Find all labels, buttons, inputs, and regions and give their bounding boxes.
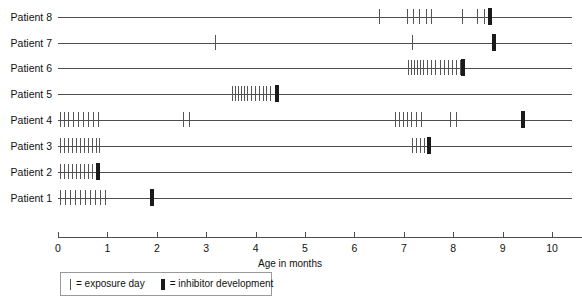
- exposure-day-tick: [407, 9, 408, 24]
- x-axis-tick: [404, 232, 405, 237]
- exposure-day-tick: [70, 190, 71, 205]
- exposure-day-tick: [408, 60, 409, 75]
- exposure-day-tick: [60, 190, 61, 205]
- x-axis-tick-label: 7: [389, 243, 419, 254]
- exposure-day-tick: [440, 60, 441, 75]
- exposure-day-tick: [88, 112, 89, 127]
- patient-timeline-line: [58, 120, 572, 121]
- exposure-day-tick: [259, 86, 260, 101]
- exposure-day-tick: [251, 86, 252, 101]
- x-axis-tick-label: 0: [43, 243, 73, 254]
- exposure-day-icon: [70, 279, 71, 290]
- inhibitor-development-marker: [96, 163, 100, 180]
- exposure-day-tick: [421, 112, 422, 127]
- exposure-day-tick: [92, 138, 93, 153]
- exposure-day-tick: [96, 138, 97, 153]
- exposure-day-tick: [427, 60, 428, 75]
- exposure-day-tick: [452, 60, 453, 75]
- exposure-day-tick: [456, 112, 457, 127]
- x-axis-tick-label: 8: [438, 243, 468, 254]
- patient-row-label: Patient 3: [0, 141, 52, 152]
- exposure-day-tick: [417, 60, 418, 75]
- exposure-day-tick: [411, 60, 412, 75]
- inhibitor-development-marker: [488, 8, 492, 25]
- inhibitor-development-marker: [461, 59, 465, 76]
- exposure-day-tick: [95, 190, 96, 205]
- exposure-day-tick: [435, 60, 436, 75]
- exposure-day-tick: [416, 112, 417, 127]
- patient-timeline-line: [58, 94, 572, 95]
- inhibitor-development-marker: [275, 85, 279, 102]
- exposure-day-tick: [407, 112, 408, 127]
- exposure-day-tick: [247, 86, 248, 101]
- exposure-day-tick: [238, 86, 239, 101]
- exposure-day-tick: [183, 112, 184, 127]
- exposure-day-tick: [423, 60, 424, 75]
- exposure-day-tick: [60, 138, 61, 153]
- legend-label-exposure-day: = exposure day: [76, 279, 145, 289]
- patient-timeline-line: [58, 17, 572, 18]
- legend-entry-inhibitor-development: = inhibitor development: [161, 279, 274, 290]
- exposure-day-tick: [105, 190, 106, 205]
- patient-timeline-line: [58, 172, 572, 173]
- patient-timeline-line: [58, 198, 572, 199]
- exposure-day-tick: [72, 164, 73, 179]
- exposure-day-tick: [83, 112, 84, 127]
- inhibitor-development-marker: [150, 189, 154, 206]
- exposure-day-tick: [76, 138, 77, 153]
- exposure-day-tick: [420, 60, 421, 75]
- patient-timeline-line: [58, 68, 572, 69]
- exposure-day-tick: [419, 9, 420, 24]
- exposure-day-tick: [232, 86, 233, 101]
- exposure-day-tick: [99, 138, 100, 153]
- x-axis-tick: [157, 232, 158, 237]
- exposure-day-tick: [73, 112, 74, 127]
- x-axis-tick-label: 10: [537, 243, 567, 254]
- exposure-day-tick: [215, 35, 216, 50]
- exposure-day-tick: [64, 138, 65, 153]
- exposure-day-tick: [263, 86, 264, 101]
- exposure-day-tick: [72, 138, 73, 153]
- exposure-day-tick: [448, 60, 449, 75]
- exposure-day-tick: [412, 138, 413, 153]
- exposure-day-tick: [189, 112, 190, 127]
- patient-row-label: Patient 4: [0, 115, 52, 126]
- exposure-day-tick: [78, 112, 79, 127]
- x-axis-tick: [206, 232, 207, 237]
- x-axis-tick: [305, 232, 306, 237]
- exposure-day-tick: [403, 112, 404, 127]
- exposure-day-tick: [68, 112, 69, 127]
- exposure-day-tick: [420, 138, 421, 153]
- exposure-day-tick: [424, 138, 425, 153]
- exposure-day-tick: [412, 35, 413, 50]
- patient-row-label: Patient 6: [0, 63, 52, 74]
- patient-timeline-line: [58, 146, 572, 147]
- exposure-day-tick: [76, 164, 77, 179]
- exposure-day-tick: [64, 164, 65, 179]
- x-axis-tick-label: 5: [290, 243, 320, 254]
- patient-row-label: Patient 5: [0, 89, 52, 100]
- patient-exposure-timeline-chart: Patient 8Patient 7Patient 6Patient 5Pati…: [0, 0, 582, 306]
- exposure-day-tick: [98, 112, 99, 127]
- exposure-day-tick: [244, 86, 245, 101]
- exposure-day-tick: [379, 9, 380, 24]
- exposure-day-tick: [100, 190, 101, 205]
- exposure-day-tick: [80, 138, 81, 153]
- x-axis-tick: [354, 232, 355, 237]
- patient-row-label: Patient 8: [0, 12, 52, 23]
- exposure-day-tick: [399, 112, 400, 127]
- x-axis-tick: [503, 232, 504, 237]
- exposure-day-tick: [431, 60, 432, 75]
- exposure-day-tick: [84, 138, 85, 153]
- exposure-day-tick: [416, 138, 417, 153]
- x-axis-tick-label: 9: [488, 243, 518, 254]
- x-axis-tick-label: 1: [92, 243, 122, 254]
- exposure-day-tick: [477, 9, 478, 24]
- x-axis-tick: [107, 232, 108, 237]
- x-axis-tick: [453, 232, 454, 237]
- exposure-day-tick: [60, 112, 61, 127]
- exposure-day-tick: [462, 9, 463, 24]
- exposure-day-tick: [270, 86, 271, 101]
- exposure-day-tick: [92, 164, 93, 179]
- exposure-day-tick: [456, 60, 457, 75]
